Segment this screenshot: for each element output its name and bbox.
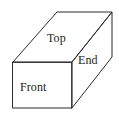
front-face-label: Front [20,81,47,93]
box-diagram-figure: Top End Front [0,0,119,117]
box-drawing [0,0,119,117]
end-face-label: End [78,54,98,66]
top-face-label: Top [47,32,66,44]
